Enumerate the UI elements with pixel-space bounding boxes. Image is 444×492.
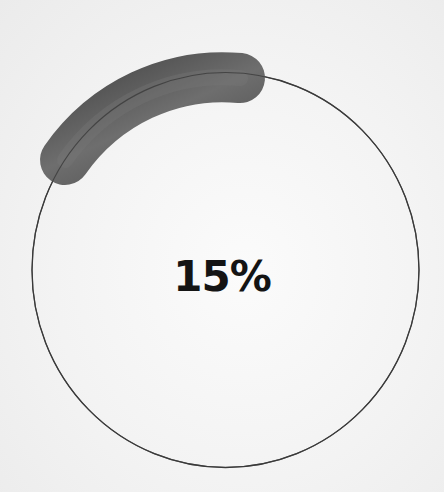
progress-percentage: 15%: [0, 252, 444, 301]
progress-ring: [0, 0, 444, 492]
progress-ring-widget: 15%: [0, 0, 444, 492]
